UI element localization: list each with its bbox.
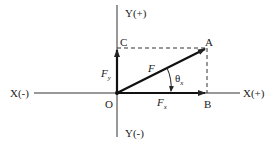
label-vector-fy: Fy: [101, 68, 111, 79]
label-y-negative: Y(-): [125, 128, 144, 139]
label-point-c: C: [120, 37, 127, 48]
label-x-negative: X(-): [10, 88, 29, 99]
label-vector-fy-symbol: F: [101, 67, 108, 79]
label-vector-fy-subscript: y: [108, 74, 111, 82]
label-x-positive: X(+): [243, 88, 264, 99]
label-point-a: A: [205, 37, 213, 48]
origin-point: [115, 91, 119, 95]
label-angle-subscript: x: [180, 79, 183, 87]
label-vector-f: F: [148, 63, 155, 74]
label-origin: O: [105, 99, 113, 110]
label-y-positive: Y(+): [125, 8, 146, 19]
vector-f-arrow: [117, 49, 205, 93]
label-vector-fx-symbol: F: [157, 96, 164, 108]
vector-diagram: [0, 0, 279, 148]
label-angle-theta-x: θx: [175, 73, 183, 84]
label-vector-fx: Fx: [157, 97, 167, 108]
label-point-b: B: [204, 99, 211, 110]
label-vector-fx-subscript: x: [164, 103, 167, 111]
angle-arc: [167, 68, 171, 91]
